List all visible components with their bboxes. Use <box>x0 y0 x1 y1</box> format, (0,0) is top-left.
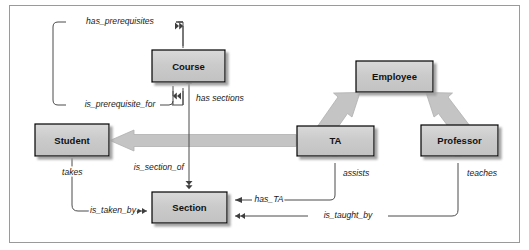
entity-section[interactable]: Section <box>152 192 227 223</box>
edge-is-taught-by-teaches <box>235 153 461 216</box>
entity-section-label: Section <box>172 202 207 213</box>
entity-professor[interactable]: Professor <box>421 125 498 156</box>
label-is-prerequisite-for: is_prerequisite_for <box>85 99 157 109</box>
edge-has-ta-assists <box>235 153 338 200</box>
entity-ta-label: TA <box>330 135 342 146</box>
label-takes: takes <box>62 167 83 177</box>
label-assists: assists <box>343 168 370 178</box>
label-is-taught-by: is_taught_by <box>324 210 373 220</box>
label-teaches: teaches <box>467 168 498 178</box>
diagram-canvas: Course Employee Student TA Professor Sec… <box>0 0 529 250</box>
label-has-ta: has_TA <box>255 194 284 204</box>
entity-employee-label: Employee <box>372 71 417 82</box>
entity-course[interactable]: Course <box>152 50 225 82</box>
entity-student-label: Student <box>54 135 90 146</box>
label-has-prerequisites: has_prerequisites <box>86 16 155 26</box>
generalization-ta-to-student <box>110 130 296 151</box>
entity-professor-label: Professor <box>437 135 482 146</box>
label-is-taken-by: is_taken_by <box>90 205 137 215</box>
entity-course-label: Course <box>172 61 205 72</box>
label-has-sections: has sections <box>196 93 244 103</box>
diagram-page: Course Employee Student TA Professor Sec… <box>0 0 529 250</box>
label-is-section-of: is_section_of <box>134 162 186 172</box>
entity-student[interactable]: Student <box>35 124 109 156</box>
entity-employee[interactable]: Employee <box>356 61 433 92</box>
relationship-labels: has_prerequisites is_prerequisite_for ha… <box>62 16 498 220</box>
entity-ta[interactable]: TA <box>297 126 374 156</box>
